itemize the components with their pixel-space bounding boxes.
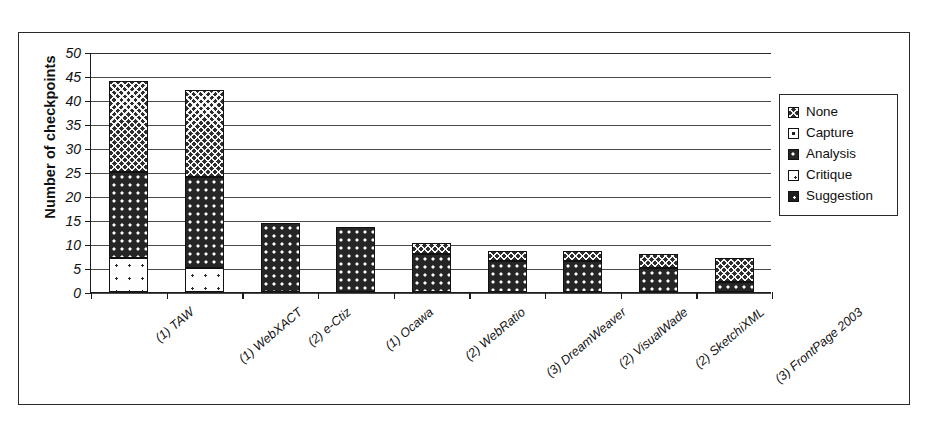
bar-group[interactable] [715, 52, 754, 292]
legend-item-none[interactable]: None [788, 102, 888, 122]
y-axis-title: Number of checkpoints [42, 32, 58, 242]
bar-segment-critique[interactable] [185, 268, 224, 292]
y-axis-tick-label: 5 [73, 261, 81, 277]
y-axis-tick-label: 30 [65, 141, 81, 157]
bar-group[interactable] [109, 52, 148, 292]
bar-segment-analysis[interactable] [488, 261, 527, 292]
legend: NoneCaptureAnalysisCritiqueSuggestion [779, 94, 898, 216]
x-axis-tick-label: (2) WebRatio [462, 305, 528, 363]
bar-group[interactable] [488, 52, 527, 292]
legend-item-label: Critique [806, 168, 852, 181]
bar-segment-analysis[interactable] [412, 254, 451, 292]
bar-segment-analysis[interactable] [109, 172, 148, 258]
x-axis-tick-label: (1) WebXACT [236, 305, 305, 366]
legend-item-analysis[interactable]: Analysis [788, 144, 888, 164]
bar-group[interactable] [261, 52, 300, 292]
x-axis-tick-label: (1) TAW [153, 305, 197, 345]
legend-item-label: Analysis [806, 147, 856, 160]
bar-segment-none[interactable] [109, 81, 148, 172]
y-axis-tick-label: 25 [65, 165, 81, 181]
bar-segment-none[interactable] [715, 258, 754, 282]
plot-area: 05101520253035404550 [90, 53, 771, 293]
bar-group[interactable] [412, 52, 451, 292]
legend-swatch-icon [788, 149, 799, 160]
y-axis-tick-label: 40 [65, 93, 81, 109]
x-axis-tick-label: (1) Ocawa [382, 305, 436, 353]
bar-segment-analysis[interactable] [563, 261, 602, 292]
bar-segment-analysis[interactable] [261, 223, 300, 292]
y-axis-tick-label: 45 [65, 69, 81, 85]
y-axis-tick-label: 0 [73, 285, 81, 301]
legend-item-suggestion[interactable]: Suggestion [788, 186, 888, 206]
y-axis-tick-label: 10 [65, 237, 81, 253]
bar-segment-none[interactable] [185, 90, 224, 176]
bar-segment-analysis[interactable] [336, 227, 375, 292]
legend-swatch-icon [788, 191, 799, 202]
bar-group[interactable] [185, 52, 224, 292]
x-axis-tick-label: (2) e-Ctiz [305, 305, 354, 349]
legend-item-critique[interactable]: Critique [788, 165, 888, 185]
bar-segment-none[interactable] [412, 243, 451, 254]
legend-swatch-icon [788, 128, 799, 139]
bar-group[interactable] [639, 52, 678, 292]
bar-segment-none[interactable] [488, 251, 527, 261]
y-axis-tick-label: 20 [65, 189, 81, 205]
bar-group[interactable] [563, 52, 602, 292]
y-axis-tick-label: 50 [65, 45, 81, 61]
x-axis-tick-label: (3) DreamWeaver [544, 305, 629, 380]
legend-swatch-icon [788, 170, 799, 181]
x-axis-tick [772, 292, 773, 299]
figure-frame: Number of checkpoints 051015202530354045… [18, 32, 910, 405]
legend-item-label: Capture [806, 126, 854, 139]
bar-segment-critique[interactable] [109, 258, 148, 292]
bar-segment-analysis[interactable] [715, 282, 754, 292]
bar-group[interactable] [336, 52, 375, 292]
x-axis-tick-label: (3) FrontPage 2003 [773, 305, 866, 386]
bar-segment-analysis[interactable] [639, 268, 678, 292]
legend-swatch-icon [788, 107, 799, 118]
x-axis-tick-label: (2) SketchiXML [692, 305, 767, 371]
x-axis-labels: (1) TAW(1) WebXACT(2) e-Ctiz(1) Ocawa(2)… [90, 297, 771, 407]
bars-layer [91, 53, 771, 292]
legend-item-label: Suggestion [806, 189, 873, 202]
bar-segment-analysis[interactable] [185, 177, 224, 268]
legend-item-capture[interactable]: Capture [788, 123, 888, 143]
bar-segment-none[interactable] [563, 251, 602, 261]
y-axis-tick-label: 15 [65, 213, 81, 229]
legend-item-label: None [806, 105, 838, 118]
y-axis-tick-label: 35 [65, 117, 81, 133]
bar-segment-none[interactable] [639, 254, 678, 268]
